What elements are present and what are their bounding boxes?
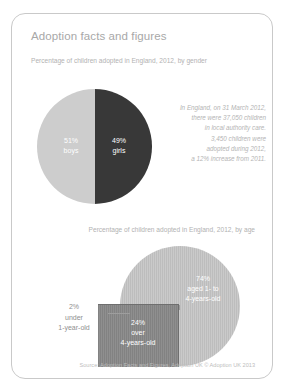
fact-line-6: a 12% increase from 2011.	[162, 154, 266, 164]
gender-chart-subtitle: Percentage of children adopted in Englan…	[31, 56, 221, 66]
page-title: Adoption facts and figures	[31, 30, 167, 42]
over-4-line-2: 4-years-old	[98, 338, 178, 348]
pie-label-boys: 51% boys	[51, 136, 91, 156]
callout-under-1: 2% under 1-year-old	[40, 302, 108, 334]
pie-label-girls: 49% girls	[99, 136, 139, 156]
source-credit: Source: Adoption Facts and Figures, Adop…	[80, 362, 255, 368]
under-1-line-2: 1-year-old	[40, 323, 108, 334]
under-1-line-1: under	[40, 313, 108, 324]
fact-line-4: 3,450 children were	[162, 134, 266, 144]
girls-percent: 49%	[99, 136, 139, 146]
callout-leader-line	[108, 313, 130, 314]
pie-label-over-4: 24% over 4-years-old	[98, 318, 178, 348]
boys-percent: 51%	[51, 136, 91, 146]
boys-label: boys	[51, 146, 91, 156]
aged-1-to-4-line-1: aged 1- to	[172, 284, 234, 294]
fact-line-5: adopted during 2012,	[162, 144, 266, 154]
over-4-line-1: over	[98, 328, 178, 338]
over-4-percent: 24%	[98, 318, 178, 328]
infographic-card: Adoption facts and figures Percentage of…	[11, 13, 273, 379]
fact-line-1: In England, on 31 March 2012,	[162, 103, 266, 113]
gender-pie-chart: 51% boys 49% girls	[37, 89, 152, 204]
fact-line-2: there were 37,050 children	[162, 113, 266, 123]
girls-label: girls	[99, 146, 139, 156]
under-1-percent: 2%	[40, 302, 108, 313]
age-chart-subtitle: Percentage of children adopted in Englan…	[89, 226, 255, 233]
pie-label-aged-1-to-4: 74% aged 1- to 4-years-old	[172, 274, 234, 304]
aged-1-to-4-line-2: 4-years-old	[172, 294, 234, 304]
aged-1-to-4-percent: 74%	[172, 274, 234, 284]
fact-line-3: in local authority care.	[162, 123, 266, 133]
age-pie-chart: 74% aged 1- to 4-years-old 24% over 4-ye…	[120, 246, 240, 366]
fact-box: In England, on 31 March 2012, there were…	[162, 103, 266, 164]
